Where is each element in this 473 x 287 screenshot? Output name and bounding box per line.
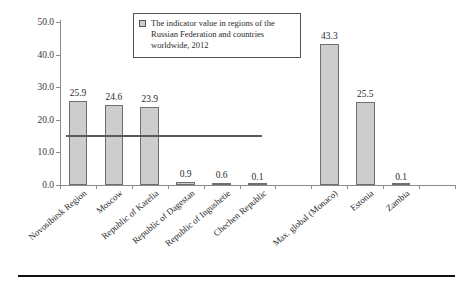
x-axis-tick (60, 185, 61, 189)
y-axis-tick-label: 10.0 (37, 147, 54, 157)
bar-value-label: 43.3 (321, 31, 338, 41)
bar (248, 183, 267, 185)
bar-value-label: 0.1 (252, 172, 264, 182)
x-axis-category-label: Zambia (384, 188, 411, 213)
y-axis-tick (56, 87, 61, 88)
x-axis-category-label: Republic of Ingushetie (163, 188, 232, 248)
x-axis-tick (383, 185, 384, 189)
x-axis-category-label: Republic of Dagestan (130, 188, 196, 246)
bar (105, 105, 124, 185)
bar (212, 183, 231, 185)
x-axis-category-label: Estonia (349, 188, 376, 213)
bar-value-label: 0.9 (180, 169, 192, 179)
legend-swatch-icon (139, 20, 146, 27)
y-axis-tick (56, 55, 61, 56)
bar (320, 44, 339, 185)
x-axis-category-label: Novosibirsk Region (27, 188, 89, 242)
y-axis-tick (56, 120, 61, 121)
y-axis-tick-label: 30.0 (37, 82, 54, 92)
x-axis-tick (275, 185, 276, 189)
bar (356, 102, 375, 185)
bar-value-label: 23.9 (141, 94, 158, 104)
chart-legend: The indicator value in regions of the Ru… (133, 13, 301, 58)
x-axis-tick (311, 185, 312, 189)
bar-value-label: 25.9 (70, 88, 87, 98)
page-separator-rule (18, 275, 455, 277)
x-axis-tick (419, 185, 420, 189)
x-axis-tick (240, 185, 241, 189)
bar (392, 183, 411, 185)
x-axis-category-label: Max. global (Monaco) (271, 188, 340, 248)
reference-line (66, 135, 261, 137)
x-axis-tick (132, 185, 133, 189)
x-axis-tick (204, 185, 205, 189)
y-axis-tick (56, 22, 61, 23)
bar-value-label: 0.6 (216, 170, 228, 180)
y-axis-tick-label: 0.0 (42, 180, 54, 190)
x-axis (60, 185, 456, 186)
bar-value-label: 24.6 (106, 92, 123, 102)
legend-label: The indicator value in regions of the Ru… (151, 18, 294, 52)
chart-container: 0.010.020.030.040.050.025.924.623.90.90.… (0, 0, 473, 287)
bar (69, 101, 88, 185)
x-axis-category-label: Moscow (94, 188, 124, 216)
x-axis-tick (168, 185, 169, 189)
x-axis-tick (347, 185, 348, 189)
bar (140, 107, 159, 185)
x-axis-tick (455, 185, 456, 189)
bar (176, 182, 195, 185)
y-axis-tick (56, 152, 61, 153)
x-axis-tick (96, 185, 97, 189)
bar-value-label: 25.5 (357, 89, 374, 99)
y-axis-tick-label: 20.0 (37, 115, 54, 125)
bar-value-label: 0.1 (395, 172, 407, 182)
y-axis-tick-label: 40.0 (37, 50, 54, 60)
y-axis-tick-label: 50.0 (37, 17, 54, 27)
